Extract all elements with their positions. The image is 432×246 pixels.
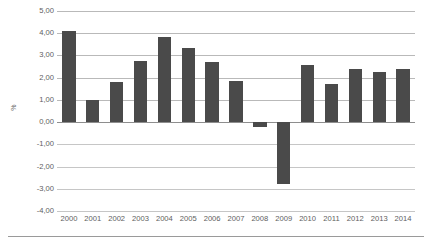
bar-2001	[86, 100, 99, 122]
x-axis-tick-label: 2001	[81, 214, 105, 224]
y-axis-tick-label: -2,00	[18, 163, 54, 171]
y-axis-tick-label: -3,00	[18, 185, 54, 193]
bar-2002	[110, 82, 123, 122]
bottom-divider	[8, 236, 424, 237]
x-axis-tick-label: 2013	[367, 214, 391, 224]
bar-2003	[134, 61, 147, 122]
x-axis-tick-label: 2008	[248, 214, 272, 224]
gridline	[57, 211, 415, 212]
bars-group	[57, 11, 415, 211]
y-axis-tick-label: 4,00	[18, 29, 54, 37]
bar-2004	[158, 37, 171, 123]
x-axis-tick-label: 2014	[391, 214, 415, 224]
x-axis-tick-label: 2012	[343, 214, 367, 224]
bar-2008	[253, 122, 266, 126]
x-axis-tick-label: 2005	[176, 214, 200, 224]
bar-2014	[396, 69, 409, 122]
x-axis-tick-label: 2009	[272, 214, 296, 224]
x-axis-tick-label: 2003	[129, 214, 153, 224]
y-axis-tick-label: -1,00	[18, 140, 54, 148]
x-axis-tick-label: 2007	[224, 214, 248, 224]
bar-2006	[205, 62, 218, 122]
bar-chart-figure: % 5,004,003,002,001,000,00-1,00-2,00-3,0…	[0, 0, 432, 246]
y-axis-tick-label: 2,00	[18, 74, 54, 82]
x-axis-tick-label: 2006	[200, 214, 224, 224]
y-axis-tick-label: -4,00	[18, 207, 54, 215]
bar-2009	[277, 122, 290, 184]
bar-2000	[62, 31, 75, 122]
bar-2013	[373, 72, 386, 122]
bar-2007	[229, 81, 242, 122]
bar-2012	[349, 69, 362, 122]
y-axis-tick-label: 1,00	[18, 96, 54, 104]
x-axis-tick-labels: 2000200120022003200420052006200720082009…	[57, 214, 415, 228]
x-axis-tick-label: 2010	[296, 214, 320, 224]
bar-2011	[325, 84, 338, 122]
y-axis-tick-label: 3,00	[18, 51, 54, 59]
y-axis-tick-label: 5,00	[18, 7, 54, 15]
x-axis-tick-label: 2000	[57, 214, 81, 224]
x-axis-tick-label: 2011	[320, 214, 344, 224]
y-axis-tick-labels: 5,004,003,002,001,000,00-1,00-2,00-3,00-…	[18, 11, 54, 211]
bar-2010	[301, 65, 314, 122]
plot-area	[57, 11, 415, 211]
y-axis-tick-label: 0,00	[18, 118, 54, 126]
bar-2005	[182, 48, 195, 122]
x-axis-tick-label: 2002	[105, 214, 129, 224]
y-axis-title: %	[10, 97, 17, 119]
x-axis-tick-label: 2004	[152, 214, 176, 224]
